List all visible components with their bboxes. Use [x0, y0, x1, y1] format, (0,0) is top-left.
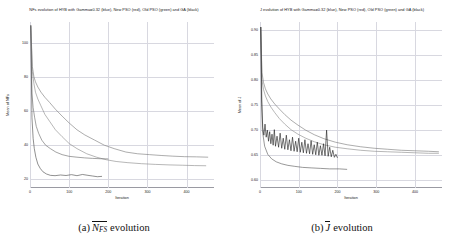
caption-b-symbol-main: J — [325, 222, 330, 233]
y-tick-label: 0.60 — [251, 178, 258, 182]
caption-b: (b)Jevolution — [228, 216, 456, 251]
series-line — [31, 25, 109, 158]
y-tick-label: 0.70 — [251, 128, 258, 132]
caption-a-lead: (a) — [78, 222, 90, 233]
y-tick-label: 0.75 — [251, 103, 258, 107]
x-tick-label: 100 — [296, 190, 302, 194]
series-line — [31, 25, 206, 165]
series-line — [261, 27, 338, 158]
caption-b-lead: (b) — [311, 222, 323, 233]
x-tick-label: 0 — [29, 190, 31, 194]
y-tick-label: 80 — [24, 75, 28, 79]
y-axis-label-j: Mean of J — [238, 75, 242, 135]
caption-b-tail: evolution — [333, 222, 373, 233]
y-axis-label-nfs: Mean of NFs — [6, 75, 10, 135]
x-tick-label: 0 — [259, 190, 261, 194]
y-tick-label: 0.65 — [251, 153, 258, 157]
caption-a-symbol: NFS — [92, 221, 107, 234]
x-tick-label: 200 — [334, 190, 340, 194]
x-tick-label: 200 — [105, 190, 111, 194]
y-tick-label: 40 — [24, 143, 28, 147]
y-tick-label: 20 — [24, 177, 28, 181]
y-tick-label: 60 — [24, 109, 28, 113]
caption-a-tail: evolution — [110, 222, 150, 233]
caption-a-symbol-main: N — [92, 222, 99, 233]
series-line — [31, 25, 208, 157]
curves-j — [260, 22, 442, 188]
figure-container: NFs evolution of HYB with Gamma=0.32 (bl… — [0, 0, 456, 251]
y-tick-label: 0.85 — [251, 53, 258, 57]
x-tick-label: 300 — [144, 190, 150, 194]
series-line — [261, 27, 439, 153]
x-tick-label: 400 — [184, 190, 190, 194]
series-line — [261, 27, 439, 152]
plot-area-j: 0.600.650.700.750.800.850.90 01002003004… — [260, 22, 442, 188]
curves-nfs — [30, 22, 214, 188]
x-tick-label: 400 — [412, 190, 418, 194]
chart-title-nfs: NFs evolution of HYB with Gamma=0.32 (bl… — [0, 7, 228, 13]
panels-row: NFs evolution of HYB with Gamma=0.32 (bl… — [0, 0, 456, 216]
x-tick-label: 300 — [373, 190, 379, 194]
plot-area-nfs: 20406080100 0100200300400 Iteration Mean… — [30, 22, 214, 188]
y-tick-label: 100 — [22, 41, 28, 45]
chart-title-j: J evolution of HYB with Gamma=0.32 (blue… — [228, 7, 456, 13]
y-tick-label: 0.80 — [251, 78, 258, 82]
captions-row: (a)NFSevolution (b)Jevolution — [0, 216, 456, 251]
x-tick-label: 100 — [66, 190, 72, 194]
panel-nfs-evolution: NFs evolution of HYB with Gamma=0.32 (bl… — [0, 0, 228, 216]
caption-a: (a)NFSevolution — [0, 216, 228, 251]
x-axis-label-nfs: Iteration — [30, 196, 214, 200]
x-axis-label-j: Iteration — [260, 196, 442, 200]
caption-a-symbol-sub: FS — [99, 226, 107, 234]
y-tick-label: 0.90 — [251, 28, 258, 32]
caption-b-symbol: J — [325, 221, 330, 234]
panel-j-evolution: J evolution of HYB with Gamma=0.32 (blue… — [228, 0, 456, 216]
series-line — [31, 25, 102, 176]
